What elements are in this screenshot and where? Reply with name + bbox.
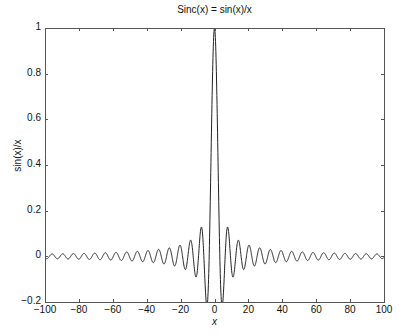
sinc-curve bbox=[45, 28, 384, 306]
sinc-plot bbox=[0, 0, 405, 336]
y-tick-label: 0.6 bbox=[5, 112, 41, 123]
x-tick-label: 100 bbox=[369, 304, 399, 315]
x-tick-label: 40 bbox=[267, 304, 297, 315]
x-tick-label: −80 bbox=[64, 304, 94, 315]
x-tick-label: 0 bbox=[200, 304, 230, 315]
axes-box bbox=[46, 29, 385, 303]
x-tick-label: −20 bbox=[166, 304, 196, 315]
x-tick-label: −60 bbox=[98, 304, 128, 315]
y-tick-label: −0.2 bbox=[5, 295, 41, 306]
x-tick-label: −40 bbox=[132, 304, 162, 315]
x-tick-label: 20 bbox=[233, 304, 263, 315]
y-tick-label: 0.4 bbox=[5, 158, 41, 169]
y-tick-label: 0.8 bbox=[5, 67, 41, 78]
plot-area bbox=[45, 28, 384, 306]
y-tick-label: 0.2 bbox=[5, 204, 41, 215]
axes-frame bbox=[45, 28, 385, 303]
y-tick-label: 0 bbox=[5, 249, 41, 260]
x-tick-label: 60 bbox=[301, 304, 331, 315]
y-tick-label: 1 bbox=[5, 21, 41, 32]
x-tick-label: 80 bbox=[335, 304, 365, 315]
